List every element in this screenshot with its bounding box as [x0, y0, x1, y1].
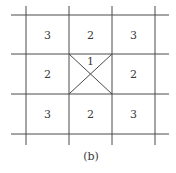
cell-label: 3: [44, 29, 51, 42]
cell-label: 2: [130, 68, 137, 81]
cell-label: 1: [87, 55, 94, 68]
cell-label: 3: [44, 108, 51, 121]
figure-caption: (b): [83, 150, 99, 163]
grid-diagram-svg: 323212323 (b): [0, 0, 176, 173]
cell-label: 2: [87, 108, 94, 121]
grid-diagram: 323212323 (b): [0, 0, 176, 173]
cell-label: 3: [130, 29, 137, 42]
cell-label: 2: [44, 68, 51, 81]
cell-labels: 323212323: [44, 29, 137, 122]
cell-label: 3: [130, 108, 137, 121]
grid-lines: [11, 6, 169, 145]
cell-label: 2: [87, 29, 94, 42]
